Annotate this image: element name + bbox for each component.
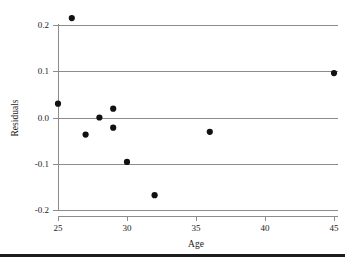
data-point xyxy=(83,132,89,138)
data-point xyxy=(331,70,337,76)
x-axis-title: Age xyxy=(188,239,204,249)
data-point xyxy=(207,129,213,135)
residual-scatter-figure: 0.2 0.1 0.0 -0.1 -0.2 25 30 35 40 45 Age… xyxy=(0,0,345,264)
data-point xyxy=(55,101,61,107)
y-tick-label--0.2: -0.2 xyxy=(35,205,49,215)
y-tick-label-0.2: 0.2 xyxy=(38,20,49,30)
y-tick-label-0.1: 0.1 xyxy=(38,66,49,76)
footer-divider xyxy=(0,254,345,257)
x-tick-label-35: 35 xyxy=(192,223,202,233)
x-tick-label-45: 45 xyxy=(330,223,340,233)
x-tick-label-40: 40 xyxy=(261,223,271,233)
data-point xyxy=(69,15,75,21)
data-point xyxy=(124,159,130,165)
x-tick-label-30: 30 xyxy=(123,223,133,233)
data-point xyxy=(152,192,158,198)
y-tick-label--0.1: -0.1 xyxy=(35,159,49,169)
data-point xyxy=(110,125,116,131)
data-point xyxy=(110,106,116,112)
y-axis-title: Residuals xyxy=(10,99,20,136)
x-axis-group: 25 30 35 40 45 xyxy=(54,216,340,233)
y-tick-label-0.0: 0.0 xyxy=(38,113,50,123)
x-tick-label-25: 25 xyxy=(54,223,64,233)
scatter-plot-svg: 0.2 0.1 0.0 -0.1 -0.2 25 30 35 40 45 Age… xyxy=(0,0,345,264)
data-point xyxy=(96,114,102,120)
data-points-group xyxy=(55,15,337,198)
y-axis-group: 0.2 0.1 0.0 -0.1 -0.2 xyxy=(35,20,58,215)
